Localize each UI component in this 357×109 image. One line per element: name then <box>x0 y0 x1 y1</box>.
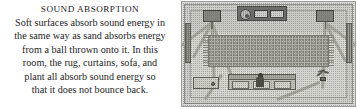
caption-line: plant all absorb sound energy so <box>0 70 180 83</box>
caption-body: Soft surfaces absorb sound energy in the… <box>0 16 180 96</box>
room-illustration <box>181 1 356 107</box>
right-curtain <box>346 23 352 63</box>
plant-pot <box>320 77 326 81</box>
side-table <box>193 77 219 89</box>
caption-line: from a ball thrown onto it. In this <box>0 43 180 56</box>
potted-plant <box>316 67 330 81</box>
turntable-icon <box>240 9 251 20</box>
person-body <box>256 77 264 87</box>
rug <box>208 35 329 67</box>
table-lamp-base <box>211 82 215 86</box>
caption-line: the same way as sand absorbs energy <box>0 29 180 42</box>
sofa-cushion <box>232 81 249 89</box>
seated-person <box>254 73 266 87</box>
amplifier-panel <box>254 10 268 18</box>
caption-block: SOUND ABSORPTION Soft surfaces absorb so… <box>0 3 180 96</box>
left-speaker <box>203 10 221 22</box>
sofa-cushion <box>274 81 291 89</box>
caption-line: room, the rug, curtains, sofa, and <box>0 56 180 69</box>
stereo-console <box>237 6 287 21</box>
caption-line: Soft surfaces absorb sound energy in <box>0 16 180 29</box>
tape-deck-panel <box>270 10 284 18</box>
left-speaker-stand <box>211 22 213 29</box>
sound-absorption-figure: SOUND ABSORPTION Soft surfaces absorb so… <box>0 0 357 109</box>
caption-title: SOUND ABSORPTION <box>0 3 180 15</box>
right-speaker <box>316 10 334 22</box>
left-curtain <box>185 23 191 63</box>
right-speaker-stand <box>325 22 327 29</box>
caption-line: that it does not bounce back. <box>0 83 180 96</box>
rug-fringe <box>329 35 334 67</box>
